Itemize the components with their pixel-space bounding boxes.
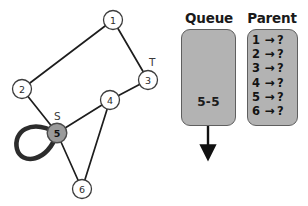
arrow-right-icon: → [262, 33, 277, 47]
parent-key: 6 [252, 104, 262, 118]
bfs-illustration: 1 2 3 4 5 6 [0, 0, 308, 206]
arrow-right-icon: → [262, 90, 277, 104]
queue-contents: 5-5 [181, 95, 236, 109]
graph-node-3-label: 3 [145, 75, 151, 86]
parent-row: 1→? [252, 33, 296, 47]
parent-row: 5→? [252, 90, 296, 104]
arrow-right-icon: → [262, 61, 277, 75]
parent-title: Parent [246, 10, 298, 26]
parent-row: 3→? [252, 61, 296, 75]
graph-node-3[interactable]: 3 [139, 71, 158, 90]
arrow-right-icon: → [262, 104, 277, 118]
parent-table: 1→? 2→? 3→? 4→? 5→? 6→? [252, 33, 296, 118]
arrow-right-icon: → [262, 76, 277, 90]
parent-key: 3 [252, 61, 262, 75]
graph-node-1[interactable]: 1 [104, 11, 123, 30]
parent-value: ? [277, 33, 287, 47]
graph-node-1-label: 1 [110, 15, 116, 26]
parent-value: ? [277, 104, 287, 118]
queue-title: Queue [181, 10, 237, 26]
parent-row: 6→? [252, 104, 296, 118]
parent-value: ? [277, 76, 287, 90]
edge-1-3 [113, 20, 148, 80]
graph-node-2[interactable]: 2 [13, 80, 32, 99]
target-node-marker-label: T [149, 56, 155, 68]
graph-node-6-label: 6 [79, 184, 85, 195]
edge-4-6 [82, 100, 110, 189]
queue-box[interactable] [181, 29, 236, 126]
start-node-marker-label: S [54, 110, 61, 122]
graph-node-2-label: 2 [19, 84, 25, 95]
parent-key: 4 [252, 76, 262, 90]
graph-node-5[interactable]: 5 [47, 123, 67, 143]
graph-node-4[interactable]: 4 [101, 91, 120, 110]
graph-edges [22, 20, 148, 189]
parent-row: 2→? [252, 47, 296, 61]
graph-node-5-label: 5 [54, 128, 61, 139]
parent-value: ? [277, 47, 287, 61]
parent-key: 2 [252, 47, 262, 61]
parent-key: 5 [252, 90, 262, 104]
graph-node-4-label: 4 [107, 95, 113, 106]
parent-value: ? [277, 90, 287, 104]
graph-node-6[interactable]: 6 [73, 180, 92, 199]
arrow-right-icon: → [262, 47, 277, 61]
parent-row: 4→? [252, 76, 296, 90]
parent-value: ? [277, 61, 287, 75]
edge-1-2 [22, 20, 113, 89]
parent-key: 1 [252, 33, 262, 47]
